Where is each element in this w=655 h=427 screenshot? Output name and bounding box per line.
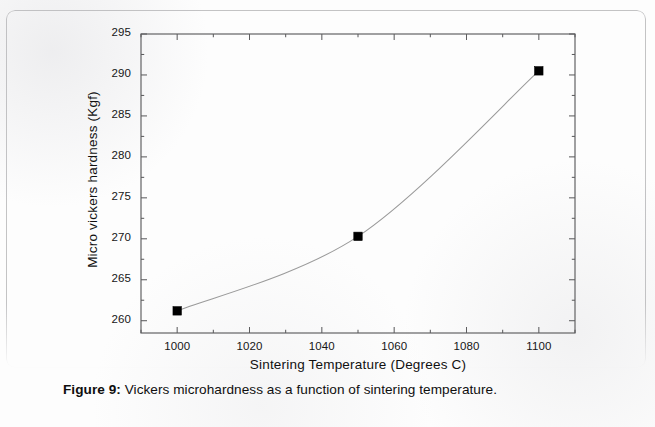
figure-caption-label: Figure 9: [63,382,121,397]
x-axis-tick-label: 1060 [364,340,424,352]
y-axis-title: Micro vickers hardness (Kgf) [85,55,100,305]
y-axis-tick-label: 295 [89,26,131,38]
x-axis-tick-label: 1080 [437,340,497,352]
series-markers [173,67,543,315]
plot-box-frame [141,34,575,333]
data-point-marker [535,67,543,75]
x-axis-minor-ticks [141,34,575,333]
x-axis-major-ticks [177,34,539,333]
x-axis-title: Sintering Temperature (Degrees C) [141,357,575,372]
y-axis-major-ticks [141,34,575,321]
y-axis-tick-label: 260 [89,313,131,325]
data-point-marker [354,232,362,240]
figure-caption: Figure 9: Vickers microhardness as a fun… [63,382,623,397]
x-axis-tick-label: 1000 [147,340,207,352]
x-axis-tick-label: 1020 [220,340,280,352]
data-point-marker [173,307,181,315]
x-axis-tick-label: 1040 [292,340,352,352]
series-curve [177,71,539,311]
figure-caption-text: Vickers microhardness as a function of s… [125,382,497,397]
chart-plot-area: 260265270275280285290295 100010201040106… [0,0,655,427]
x-axis-tick-label: 1100 [509,340,569,352]
y-axis-minor-ticks [141,54,575,300]
